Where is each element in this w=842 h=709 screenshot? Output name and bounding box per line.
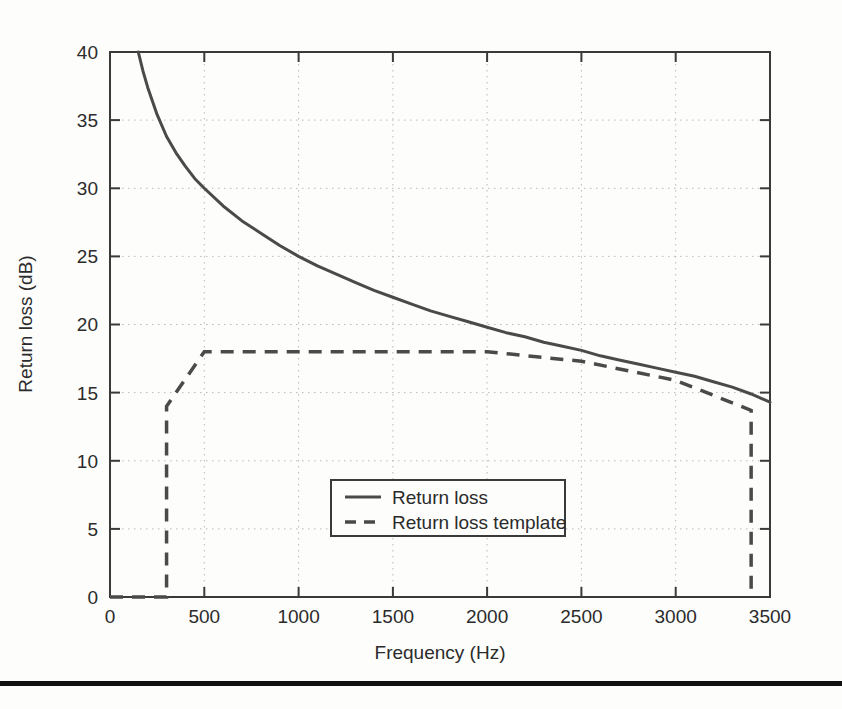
x-tick-label-0: 0 xyxy=(105,606,116,627)
y-axis-title: Return loss (dB) xyxy=(15,255,36,392)
x-tick-label-3000: 3000 xyxy=(655,606,697,627)
x-tick-labels: 0 500 1000 1500 2000 2500 3000 3500 xyxy=(105,606,791,627)
legend-label-return-loss-template: Return loss template xyxy=(392,512,566,533)
y-tick-labels: 0 5 10 15 20 25 30 35 40 xyxy=(77,42,98,608)
x-axis-title: Frequency (Hz) xyxy=(375,642,506,663)
y-tick-label-35: 35 xyxy=(77,110,98,131)
x-tick-label-500: 500 xyxy=(188,606,220,627)
y-tick-label-0: 0 xyxy=(87,587,98,608)
figure-page: 0 5 10 15 20 25 30 35 40 0 500 1000 1500… xyxy=(0,0,842,709)
y-tick-label-20: 20 xyxy=(77,314,98,335)
return-loss-chart: 0 5 10 15 20 25 30 35 40 0 500 1000 1500… xyxy=(0,0,842,709)
page-bottom-rule xyxy=(0,681,842,686)
x-tick-label-1500: 1500 xyxy=(372,606,414,627)
y-tick-label-40: 40 xyxy=(77,42,98,63)
chart-svg: 0 5 10 15 20 25 30 35 40 0 500 1000 1500… xyxy=(0,0,842,709)
y-tick-label-25: 25 xyxy=(77,246,98,267)
y-tick-label-30: 30 xyxy=(77,178,98,199)
legend-label-return-loss: Return loss xyxy=(392,487,488,508)
x-tick-label-2500: 2500 xyxy=(560,606,602,627)
y-tick-label-15: 15 xyxy=(77,383,98,404)
x-tick-label-1000: 1000 xyxy=(277,606,319,627)
x-tick-label-2000: 2000 xyxy=(466,606,508,627)
legend[interactable]: Return loss Return loss template xyxy=(331,480,566,536)
x-tick-label-3500: 3500 xyxy=(749,606,791,627)
y-tick-label-5: 5 xyxy=(87,519,98,540)
y-tick-label-10: 10 xyxy=(77,451,98,472)
